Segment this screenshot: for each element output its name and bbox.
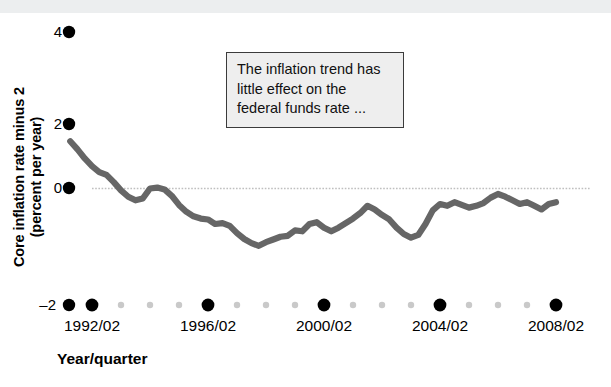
x-tick-label-2004: 2004/02 <box>385 317 495 335</box>
chart-figure: 4 2 0 –2 Core inflation rate minus 2 (pe… <box>0 0 611 387</box>
x-tick-label-1992: 1992/02 <box>37 317 147 335</box>
annotation-line-1: The inflation trend has <box>237 60 394 80</box>
annotation-callout: The inflation trend has little effect on… <box>226 52 404 128</box>
y-axis-title: Core inflation rate minus 2 (percent per… <box>11 42 45 312</box>
cropped-caption-sliver <box>0 378 611 387</box>
x-tick-label-1996: 1996/02 <box>153 317 263 335</box>
x-axis-tick-dots <box>86 299 563 312</box>
x-axis-title: Year/quarter <box>57 350 147 368</box>
y-axis-title-line-1: Core inflation rate minus 2 <box>11 42 28 312</box>
annotation-line-2: little effect on the <box>237 80 394 100</box>
y-axis-tick-dots <box>63 26 75 311</box>
y-axis-title-line-2: (percent per year) <box>28 42 45 312</box>
x-tick-label-2000: 2000/02 <box>269 317 379 335</box>
x-tick-label-2008: 2008/02 <box>501 317 611 335</box>
annotation-line-3: federal funds rate ... <box>237 99 394 119</box>
y-tick-label-4: 4 <box>36 23 62 40</box>
data-series-line <box>70 141 556 246</box>
